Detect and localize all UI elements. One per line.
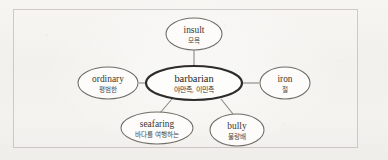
node-bully[interactable]: bully 불량배 xyxy=(210,114,264,146)
figure-canvas: insult 모욕 ordinary 평범한 iron 철 seafaring … xyxy=(0,0,388,160)
node-barbarian-central[interactable]: barbarian 야만족, 이민족 xyxy=(146,66,242,100)
edge-barbarian-bully xyxy=(221,99,233,114)
word-web-diagram: insult 모욕 ordinary 평범한 iron 철 seafaring … xyxy=(0,0,388,160)
node-insult-term: insult xyxy=(184,25,205,35)
edge-barbarian-seafaring xyxy=(160,99,172,113)
node-iron-gloss: 철 xyxy=(282,85,288,94)
node-iron-term: iron xyxy=(277,74,292,84)
node-iron[interactable]: iron 철 xyxy=(260,67,310,99)
node-seafaring-gloss: 바다를 여행하는 xyxy=(135,130,179,139)
node-bully-gloss: 불량배 xyxy=(228,132,246,141)
node-ordinary[interactable]: ordinary 평범한 xyxy=(78,67,138,99)
node-barbarian-term: barbarian xyxy=(174,73,214,84)
node-bully-term: bully xyxy=(227,121,247,131)
node-ordinary-term: ordinary xyxy=(92,74,124,84)
node-barbarian-gloss: 야만족, 이민족 xyxy=(174,85,214,94)
node-seafaring-term: seafaring xyxy=(140,119,175,129)
node-insult-gloss: 모욕 xyxy=(188,37,200,45)
node-insult[interactable]: insult 모욕 xyxy=(166,18,222,50)
node-seafaring[interactable]: seafaring 바다를 여행하는 xyxy=(121,112,193,144)
node-ordinary-gloss: 평범한 xyxy=(99,85,117,94)
